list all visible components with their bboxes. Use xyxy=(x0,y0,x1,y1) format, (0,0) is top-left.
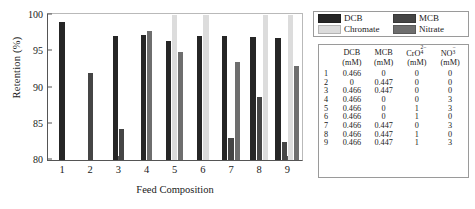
y-tick-mark xyxy=(48,86,52,87)
legend-item-nitrate: Nitrate xyxy=(391,25,466,34)
bar-chromate-group-5 xyxy=(172,15,177,160)
chart-legend: DCBMCBChromateNitrate xyxy=(313,11,469,37)
legend-swatch-icon xyxy=(318,25,341,34)
bar-mcb-group-2 xyxy=(88,73,93,160)
legend-label: Chromate xyxy=(344,25,380,34)
y-axis-label: Retention (%) xyxy=(11,8,22,128)
x-tick-label: 2 xyxy=(88,160,93,175)
bar-dcb-group-9 xyxy=(275,38,280,160)
plot-inner: 80859095100123456789 xyxy=(48,14,302,160)
chromate-sub: 4 xyxy=(420,50,423,56)
header-index xyxy=(321,48,336,59)
bar-mcb-group-7 xyxy=(228,138,233,160)
y-tick-label: 85 xyxy=(33,118,48,129)
cell-chromate: 1 xyxy=(399,139,434,148)
x-tick-label: 8 xyxy=(257,160,262,175)
bar-dcb-group-8 xyxy=(250,37,255,160)
x-tick-label: 5 xyxy=(172,160,177,175)
bar-nitrate-group-5 xyxy=(178,52,183,160)
y-tick-mark xyxy=(48,159,52,160)
bar-dcb-group-7 xyxy=(222,36,227,160)
bar-chart: Retention (%) 80859095100123456789 Feed … xyxy=(0,0,306,209)
x-tick-label: 4 xyxy=(144,160,149,175)
x-tick-label: 6 xyxy=(200,160,205,175)
plot-area: 80859095100123456789 xyxy=(47,13,303,161)
legend-item-chromate: Chromate xyxy=(316,25,391,34)
nitrate-sub: 3 xyxy=(453,50,456,56)
cell-index: 9 xyxy=(321,139,336,148)
x-tick-label: 1 xyxy=(59,160,64,175)
legend-swatch-icon xyxy=(393,25,416,34)
bar-nitrate-group-4 xyxy=(147,31,152,160)
cell-mcb: 0.447 xyxy=(368,139,400,148)
composition-table: DCB MCB CrO2−4 NO−3 (mM) (mM) (mM) (mM) … xyxy=(321,48,466,148)
legend-label: Nitrate xyxy=(419,25,444,34)
legend-item-dcb: DCB xyxy=(316,14,391,23)
x-tick-label: 3 xyxy=(116,160,121,175)
bar-nitrate-group-7 xyxy=(235,62,240,160)
bar-chromate-group-6 xyxy=(203,15,208,160)
bar-dcb-group-3 xyxy=(113,36,118,160)
table-row: 90.4660.44713 xyxy=(321,139,466,148)
y-tick-label: 95 xyxy=(33,45,48,56)
table-head: DCB MCB CrO2−4 NO−3 (mM) (mM) (mM) (mM) xyxy=(321,48,466,70)
bar-nitrate-group-9 xyxy=(294,66,299,161)
legend-item-mcb: MCB xyxy=(391,14,466,23)
table-body: 10.466000200.4470030.4660.4470040.466003… xyxy=(321,70,466,148)
x-tick-label: 9 xyxy=(285,160,290,175)
y-tick-label: 100 xyxy=(28,9,48,20)
y-tick-mark xyxy=(48,14,52,15)
bar-dcb-group-1 xyxy=(59,22,64,160)
cell-dcb: 0.466 xyxy=(336,139,368,148)
x-tick-label: 7 xyxy=(228,160,233,175)
cell-nitrate: 3 xyxy=(434,139,466,148)
bar-mcb-group-8 xyxy=(257,97,262,160)
legend-label: DCB xyxy=(344,14,363,23)
bar-mcb-group-3 xyxy=(119,129,124,160)
bar-chromate-group-9 xyxy=(288,15,293,160)
bar-chromate-group-8 xyxy=(263,15,268,160)
figure-root: Retention (%) 80859095100123456789 Feed … xyxy=(0,0,475,209)
y-tick-mark xyxy=(48,50,52,51)
bar-mcb-group-9 xyxy=(282,142,287,160)
legend-label: MCB xyxy=(419,14,439,23)
y-tick-mark xyxy=(48,123,52,124)
x-axis-label: Feed Composition xyxy=(47,184,303,195)
legend-swatch-icon xyxy=(393,14,416,23)
table-row: 10.466000 xyxy=(321,70,466,79)
bar-dcb-group-6 xyxy=(197,36,202,160)
y-tick-label: 80 xyxy=(33,154,48,165)
bar-dcb-group-4 xyxy=(141,35,146,160)
y-tick-label: 90 xyxy=(33,81,48,92)
legend-swatch-icon xyxy=(318,14,341,23)
bar-dcb-group-5 xyxy=(166,41,171,160)
feed-composition-table: DCB MCB CrO2−4 NO−3 (mM) (mM) (mM) (mM) … xyxy=(318,44,469,178)
